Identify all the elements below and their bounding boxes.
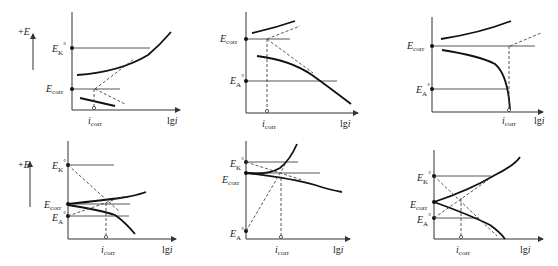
icorr-marker [265,109,268,112]
lgi-label: lgi [333,244,344,255]
ea-label: EA° [415,82,430,98]
ea-label: EA° [229,226,244,242]
icorr-marker [459,235,462,238]
lgi-label: lgi [534,115,545,126]
icorr-label: icorr [262,118,277,131]
anodic-curve [246,173,342,192]
ecorr-point [70,87,74,91]
plus-e-label: +E [18,159,30,170]
lgi-label: lgi [167,115,178,126]
cathodic-extrapolation [510,33,541,46]
icorr-marker [279,235,282,238]
panel-e: EK° Ecorr EA° icorr lgi [221,141,350,257]
ecorr-label: Ecorr [43,199,62,212]
cathodic-curve [248,144,297,173]
ecorr-point [430,44,434,48]
anodic-curve [68,205,135,234]
ecorr-point [244,37,248,41]
ecorr-label: Ecorr [45,83,64,96]
ea-label: EA° [416,212,431,228]
icorr-label: icorr [456,244,471,257]
anodic-curve [80,98,115,106]
panel-b: Ecorr EA° icorr lgi [219,12,358,131]
lgi-label: lgi [162,244,173,255]
icorr-marker [507,108,510,111]
cathodic-curve [434,157,520,202]
icorr-marker [92,106,95,109]
ek-label: EK° [229,156,244,172]
panel-d: +E EK° Ecorr EA° icorr lgi [18,141,176,257]
ecorr-label: Ecorr [221,174,240,187]
anodic-curve [257,56,351,104]
cathodic-extrapolation [95,59,134,89]
cathodic-curve [252,21,295,33]
panel-f: EK° Ecorr EA° icorr lgi [409,150,543,257]
ek-label: EK° [416,170,431,186]
cathodic-curve [77,32,171,75]
lgi-label: lgi [340,118,351,129]
anodic-extrapolation [267,39,313,73]
evans-diagrams: +E EK° Ecorr icorr lgi Ecorr EA° [0,0,558,266]
panel-a: +E EK° Ecorr icorr lgi [18,12,180,128]
cathodic-extrapolation [68,165,120,212]
ea-point [244,79,248,83]
lgi-label: lgi [520,244,531,255]
icorr-label: icorr [275,244,290,257]
ek-label: EK° [51,41,66,57]
ek-point [70,46,74,50]
ea-point [430,87,434,91]
icorr-marker [104,235,107,238]
anodic-curve [442,50,510,110]
cathodic-curve [441,21,511,39]
ea-label: EA° [51,210,66,226]
ek-label: EK° [51,158,66,174]
ecorr-label: Ecorr [409,199,428,212]
icorr-label: icorr [88,115,103,128]
panel-c: Ecorr EA° icorr lgi [406,17,545,128]
anodic-curve [434,202,505,239]
icorr-label: icorr [502,115,517,128]
icorr-label: icorr [101,244,116,257]
plus-e-label: +E [18,26,30,37]
ecorr-label: Ecorr [219,33,238,46]
ea-label: EA° [229,73,244,89]
ecorr-label: Ecorr [406,40,425,53]
